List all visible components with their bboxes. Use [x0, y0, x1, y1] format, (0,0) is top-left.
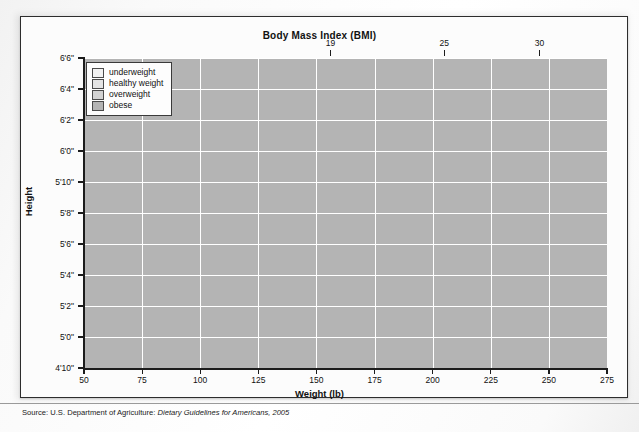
bmi-tick	[444, 50, 445, 56]
x-axis-tick-label: 50	[64, 375, 104, 385]
x-axis-tick-label: 175	[355, 375, 395, 385]
bmi-tick-label: 30	[520, 38, 560, 48]
gridline-horizontal	[84, 151, 607, 152]
legend-item-label: underweight	[109, 67, 155, 78]
x-axis-tick-label: 200	[413, 375, 453, 385]
y-axis-tick-label: 5'2"	[18, 301, 74, 311]
legend-swatch-icon	[92, 68, 104, 78]
x-axis-title: Weight (lb)	[0, 388, 639, 399]
x-axis-tick-label: 225	[471, 375, 511, 385]
legend-item-healthy-weight: healthy weight	[92, 78, 163, 89]
y-axis-tick-label: 5'4"	[18, 270, 74, 280]
gridline-horizontal	[84, 244, 607, 245]
x-axis-tick	[200, 369, 201, 374]
y-axis-tick-label: 4'10"	[18, 363, 74, 373]
x-axis-tick	[548, 369, 549, 374]
legend-swatch-icon	[92, 79, 104, 89]
y-axis-tick-label: 6'4"	[18, 84, 74, 94]
source-prefix: Source: U.S. Department of Agriculture:	[22, 408, 157, 417]
y-axis-tick-label: 5'6"	[18, 239, 74, 249]
y-axis-tick	[78, 150, 83, 151]
gridline-horizontal	[84, 306, 607, 307]
legend-item-label: overweight	[109, 89, 150, 100]
legend-item-obese: obese	[92, 100, 163, 111]
bmi-tick-label: 25	[424, 38, 464, 48]
legend-swatch-icon	[92, 90, 104, 100]
legend-item-underweight: underweight	[92, 67, 163, 78]
x-axis-tick	[142, 369, 143, 374]
y-axis-tick	[78, 274, 83, 275]
x-axis-tick	[258, 369, 259, 374]
x-axis-line	[83, 368, 608, 370]
y-axis-tick-label: 6'0"	[18, 146, 74, 156]
source-title: Dietary Guidelines for Americans, 2005	[157, 408, 289, 417]
bmi-tick	[539, 50, 540, 56]
legend-item-overweight: overweight	[92, 89, 163, 100]
y-axis-tick	[78, 119, 83, 120]
x-axis-tick	[606, 369, 607, 374]
y-axis-tick	[78, 212, 83, 213]
y-axis-tick	[78, 57, 83, 58]
x-axis-tick-label: 75	[122, 375, 162, 385]
legend: underweighthealthy weightoverweightobese	[86, 62, 172, 116]
bmi-tick-label: 19	[310, 38, 350, 48]
y-axis-tick-label: 6'2"	[18, 115, 74, 125]
x-axis-tick	[316, 369, 317, 374]
y-axis-tick-label: 6'6"	[18, 53, 74, 63]
caption-divider	[0, 403, 639, 404]
x-axis-tick-label: 250	[529, 375, 569, 385]
y-axis-title: Height	[23, 172, 34, 232]
y-axis-tick	[78, 367, 83, 368]
x-axis-tick-label: 150	[296, 375, 336, 385]
gridline-horizontal	[84, 275, 607, 276]
source-caption: Source: U.S. Department of Agriculture: …	[22, 408, 289, 417]
x-axis-tick	[490, 369, 491, 374]
legend-item-label: obese	[109, 100, 132, 111]
bmi-tick	[330, 50, 331, 56]
y-axis-tick	[78, 181, 83, 182]
y-axis-tick-label: 5'0"	[18, 332, 74, 342]
x-axis-tick-label: 100	[180, 375, 220, 385]
gridline-horizontal	[84, 120, 607, 121]
gridline-horizontal	[84, 337, 607, 338]
x-axis-tick	[83, 369, 84, 374]
legend-swatch-icon	[92, 101, 104, 111]
y-axis-tick	[78, 336, 83, 337]
x-axis-tick-label: 275	[587, 375, 627, 385]
y-axis-tick	[78, 305, 83, 306]
legend-item-label: healthy weight	[109, 78, 163, 89]
y-axis-tick	[78, 243, 83, 244]
gridline-horizontal	[84, 213, 607, 214]
gridline-horizontal	[84, 58, 607, 59]
x-axis-tick	[374, 369, 375, 374]
y-axis-tick	[78, 88, 83, 89]
y-axis-line	[83, 57, 85, 369]
x-axis-tick	[432, 369, 433, 374]
x-axis-tick-label: 125	[238, 375, 278, 385]
gridline-horizontal	[84, 182, 607, 183]
